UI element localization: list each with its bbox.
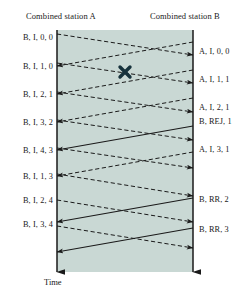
frame-label-b: B, REJ, 1: [199, 117, 232, 127]
frame-label-b: A, I, 2, 1: [199, 103, 230, 113]
frame-label-a: B, I, 2, 4: [23, 196, 53, 206]
frame-label-a: B, I, 1, 3: [23, 172, 53, 182]
frame-label-a: B, I, 0, 0: [23, 33, 53, 43]
frame-label-a: B, I, 2, 1: [23, 90, 53, 100]
frame-label-b: A, I, 1, 1: [199, 75, 230, 85]
frame-label-a: B, I, 1, 0: [23, 62, 53, 72]
frame-label-b: B, RR, 2: [199, 195, 229, 205]
station-a-title: Combined station A: [26, 11, 96, 21]
frame-label-a: B, I, 4, 3: [23, 146, 53, 156]
frame-label-a: B, I, 3, 2: [23, 118, 53, 128]
frame-label-b: B, RR, 3: [199, 225, 229, 235]
frame-label-b: A, I, 3, 1: [199, 145, 230, 155]
frame-label-a: B, I, 3, 4: [23, 220, 53, 230]
station-b-title: Combined station B: [150, 11, 220, 21]
frame-label-b: A, I, 0, 0: [199, 47, 230, 57]
time-axis-label: Time: [44, 277, 62, 287]
hdlc-timing-diagram: Combined station A Combined station B B,…: [0, 0, 250, 297]
